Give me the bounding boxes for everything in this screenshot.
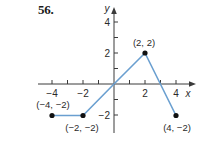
x-axis: −4 −2 2 4 x	[38, 80, 196, 99]
y-tick-label: −2	[99, 110, 111, 121]
point-label: (2, 2)	[133, 37, 155, 48]
point-neg4-neg2	[49, 113, 54, 118]
x-tick-label: −2	[77, 88, 89, 99]
y-axis: 4 2 −2 y	[99, 3, 118, 133]
y-axis-label: y	[104, 3, 111, 14]
point-4-neg2	[173, 113, 178, 118]
function-graph: −4 −2 2 4 x 4 2 −2 y (−4, −2) (−2, −2) (…	[0, 0, 209, 146]
point-label: (−4, −2)	[36, 99, 69, 110]
x-tick-label: 2	[142, 88, 148, 99]
y-tick-label: 4	[104, 17, 110, 28]
point-label: (4, −2)	[163, 122, 191, 133]
x-axis-arrow-icon	[189, 81, 196, 87]
point-label: (−2, −2)	[65, 122, 98, 133]
point-2-2	[142, 50, 147, 55]
x-tick-label: 4	[173, 88, 179, 99]
x-axis-label: x	[185, 88, 192, 99]
y-axis-arrow-icon	[111, 7, 117, 14]
point-neg2-neg2	[80, 113, 85, 118]
x-tick-label: −4	[46, 88, 58, 99]
y-tick-label: 2	[104, 48, 110, 59]
